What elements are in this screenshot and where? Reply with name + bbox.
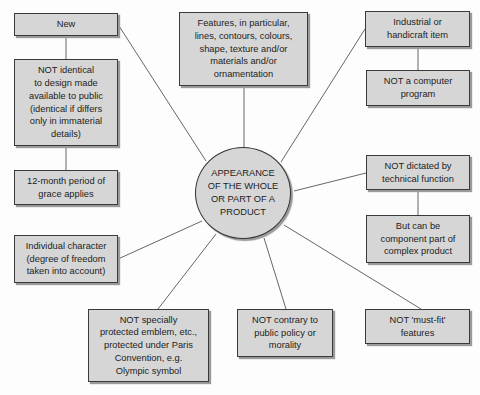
node-not-must-fit: NOT 'must-fit' features — [365, 309, 470, 344]
node-industrial: Industrial or handicraft item — [365, 11, 470, 47]
node-not-emblem: NOT specially protected emblem, etc., pr… — [88, 309, 209, 382]
node-individual-character: Individual character (degree of freedom … — [14, 235, 118, 283]
node-not-public-policy: NOT contrary to public policy or moralit… — [237, 309, 333, 357]
edge-center-public-policy — [264, 238, 286, 309]
edge-center-emblem — [158, 234, 216, 309]
node-component-part: But can be component part of complex pro… — [366, 215, 470, 263]
node-not-identical: NOT identical to design made available t… — [14, 59, 118, 146]
node-new: New — [14, 13, 118, 36]
edge-center-individual — [118, 221, 202, 259]
node-grace-period: 12-month period of grace applies — [14, 170, 118, 205]
node-features: Features, in particular, lines, contours… — [179, 12, 308, 86]
edge-center-technical — [294, 173, 366, 191]
node-not-technical: NOT dictated by technical function — [366, 155, 470, 190]
center-node: APPEARANCE OF THE WHOLE OR PART OF A PRO… — [195, 147, 291, 239]
node-not-computer-program: NOT a computer program — [366, 70, 470, 106]
